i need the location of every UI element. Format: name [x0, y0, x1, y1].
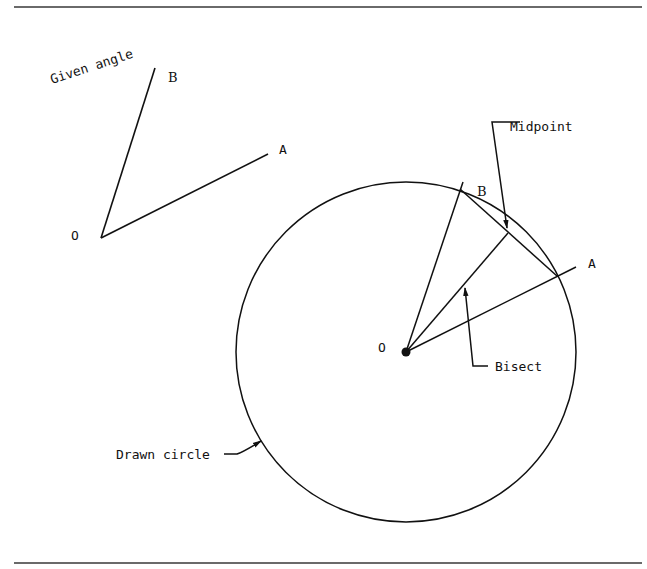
midpoint-callout: Midpoint — [510, 119, 573, 134]
construction — [224, 122, 576, 522]
construction-label-b: B — [477, 184, 487, 199]
chord-ba — [460, 189, 557, 276]
bisector-line — [406, 233, 508, 352]
bisect-callout: Bisect — [495, 359, 542, 374]
given-label-a: A — [279, 142, 287, 157]
construction-label-o: O — [378, 340, 386, 355]
given-label-b: B — [168, 70, 178, 85]
given-angle-label: Given angle — [48, 46, 135, 87]
midpoint-leader — [492, 122, 520, 228]
construction-label-a: A — [588, 256, 596, 271]
drawn-circle-leader — [224, 441, 261, 454]
given-ray-oa — [101, 154, 268, 238]
given-ray-ob — [101, 68, 155, 238]
bisect-leader — [465, 288, 488, 366]
center-point — [402, 348, 411, 357]
given-label-o: O — [71, 228, 79, 243]
given-angle — [101, 68, 268, 238]
construction-ray-oa — [406, 267, 576, 352]
drawn-circle-callout: Drawn circle — [116, 447, 210, 462]
construction-ray-ob — [406, 182, 463, 352]
construction-diagram: Given angle B A O O B A Midpoint Bisect … — [0, 0, 647, 569]
